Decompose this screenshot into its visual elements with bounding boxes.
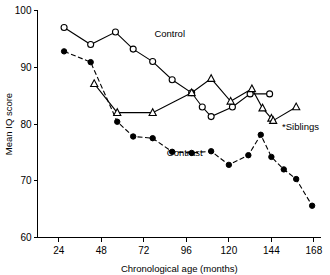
x-axis-title: Chronological age (months) bbox=[121, 263, 238, 274]
series-label-contrast: Contrast bbox=[167, 147, 203, 158]
data-point bbox=[226, 162, 231, 167]
x-tick-label: 144 bbox=[263, 245, 280, 256]
x-tick-label: 24 bbox=[53, 245, 65, 256]
data-point bbox=[199, 104, 205, 110]
data-point bbox=[246, 153, 251, 158]
y-tick-label: 90 bbox=[20, 62, 32, 73]
y-axis-title: Mean IQ score bbox=[3, 93, 14, 155]
series-contrast bbox=[61, 49, 314, 209]
data-point bbox=[293, 103, 300, 110]
data-point bbox=[259, 104, 266, 111]
data-point bbox=[169, 77, 175, 83]
data-point bbox=[130, 134, 135, 139]
data-point bbox=[229, 104, 235, 110]
data-point bbox=[208, 149, 213, 154]
series-line-contrast bbox=[64, 51, 312, 205]
data-point bbox=[258, 132, 263, 137]
data-point bbox=[269, 154, 274, 159]
data-point bbox=[248, 85, 255, 92]
x-tick-label: 96 bbox=[181, 245, 193, 256]
data-point bbox=[150, 135, 155, 140]
x-tick-label: 48 bbox=[96, 245, 108, 256]
data-point bbox=[309, 203, 314, 208]
axes: 6070809010024487296120144168Chronologica… bbox=[3, 5, 323, 274]
series-siblings bbox=[91, 75, 300, 124]
data-point bbox=[88, 59, 93, 64]
iq-score-line-chart: 6070809010024487296120144168Chronologica… bbox=[0, 0, 330, 275]
data-point bbox=[150, 59, 156, 65]
data-point bbox=[112, 29, 118, 35]
data-point bbox=[267, 91, 273, 97]
data-point bbox=[88, 42, 94, 48]
data-point bbox=[61, 25, 67, 31]
data-point bbox=[281, 167, 286, 172]
y-tick-label: 80 bbox=[20, 119, 32, 130]
series-annotations: ControlContrast*Siblings bbox=[154, 28, 319, 158]
x-tick-label: 120 bbox=[221, 245, 238, 256]
series-label-siblings: *Siblings bbox=[282, 121, 319, 132]
data-point bbox=[293, 176, 298, 181]
data-point bbox=[91, 80, 98, 87]
y-tick-label: 100 bbox=[15, 5, 32, 16]
data-point bbox=[130, 46, 136, 52]
data-point bbox=[61, 49, 66, 54]
data-point bbox=[115, 119, 120, 124]
chart-canvas: 6070809010024487296120144168Chronologica… bbox=[0, 0, 330, 275]
data-point bbox=[208, 114, 214, 120]
x-tick-label: 168 bbox=[306, 245, 323, 256]
series-line-siblings bbox=[94, 79, 296, 121]
data-series bbox=[61, 25, 315, 209]
series-label-control: Control bbox=[154, 28, 185, 39]
data-point bbox=[208, 75, 215, 82]
y-tick-label: 60 bbox=[20, 232, 32, 243]
y-tick-label: 70 bbox=[20, 175, 32, 186]
x-tick-label: 72 bbox=[138, 245, 150, 256]
